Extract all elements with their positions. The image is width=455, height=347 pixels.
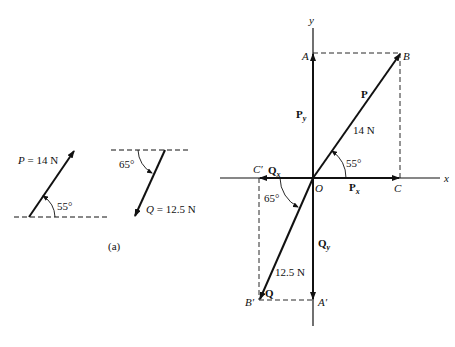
point-b-prime-label: B′ — [245, 296, 255, 308]
x-axis-label: x — [443, 172, 449, 184]
svg-text:P = 14 N: P = 14 N — [17, 154, 58, 166]
vector-px-sub: x — [355, 187, 360, 196]
vector-qy-sub: y — [326, 243, 331, 252]
svg-text:Py: Py — [296, 108, 307, 123]
vector-q-magnitude: 12.5 N — [275, 266, 305, 278]
q-label: Q — [146, 203, 154, 215]
q-value: = 12.5 N — [154, 203, 196, 215]
figure-a-p: P = 14 N 55° — [14, 151, 110, 217]
q-angle-label: 65° — [119, 158, 134, 170]
svg-text:Q = 12.5 N: Q = 12.5 N — [146, 203, 196, 215]
vector-q-angle: 65° — [264, 192, 279, 204]
figure-a-caption: (a) — [108, 240, 121, 253]
point-a-label: A — [301, 50, 309, 62]
figure-a-q: 65° Q = 12.5 N — [111, 150, 196, 216]
vector-qx-sub: x — [276, 170, 281, 179]
y-axis-label: y — [308, 14, 314, 26]
svg-text:Px: Px — [349, 181, 360, 196]
p-value: = 14 N — [25, 154, 58, 166]
angle-arc-q — [280, 178, 298, 207]
vector-p-angle: 55° — [346, 157, 361, 169]
angle-arc-p — [332, 151, 346, 178]
point-a-prime-label: A′ — [317, 296, 328, 308]
vector-p-label: P — [361, 88, 368, 100]
point-c-label: C — [394, 182, 402, 194]
figure-b: x y O A B C C′ B′ A′ P 14 N 55° Py Px Qx… — [220, 14, 449, 326]
origin-label: O — [315, 182, 323, 194]
p-angle-label: 55° — [57, 200, 72, 212]
vector-p-magnitude: 14 N — [353, 124, 375, 136]
svg-text:Qy: Qy — [318, 237, 331, 252]
vector-py-sub: y — [302, 114, 307, 123]
point-c-prime-label: C′ — [253, 163, 263, 175]
point-b-label: B — [403, 50, 410, 62]
angle-arc-p — [43, 196, 55, 217]
vector-decomposition-diagram: P = 14 N 55° 65° Q = 12.5 N (a) x y O — [0, 0, 455, 347]
svg-text:Qx: Qx — [268, 164, 281, 179]
angle-arc-q — [138, 150, 152, 173]
vector-q-label: Q — [265, 287, 274, 299]
